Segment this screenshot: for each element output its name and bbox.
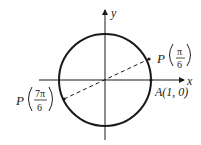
point-a (149, 78, 152, 81)
label-a: A(1, 0) (154, 85, 188, 99)
right-paren (49, 87, 53, 111)
left-paren (29, 87, 33, 111)
label-p-7pi-6-denominator: 6 (37, 102, 42, 113)
point-p-pi-6 (147, 57, 150, 60)
label-p-pi-6-denominator: 6 (177, 59, 182, 70)
label-p-pi-6: P π 6 (156, 44, 191, 70)
label-p-pi-6-name: P (156, 51, 165, 66)
label-p-7pi-6: P 7π 6 (15, 87, 53, 113)
label-p-pi-6-numerator: π (177, 46, 182, 57)
left-paren (170, 44, 174, 66)
label-p-7pi-6-name: P (15, 93, 24, 108)
right-paren (187, 44, 191, 66)
point-p-7pi-6 (62, 97, 65, 100)
y-axis-label: y (110, 6, 117, 20)
dashed-diameter (64, 59, 149, 99)
unit-circle-diagram: y x P π 6 A(1, 0) P 7π 6 (0, 0, 201, 145)
label-p-7pi-6-numerator: 7π (35, 88, 45, 99)
